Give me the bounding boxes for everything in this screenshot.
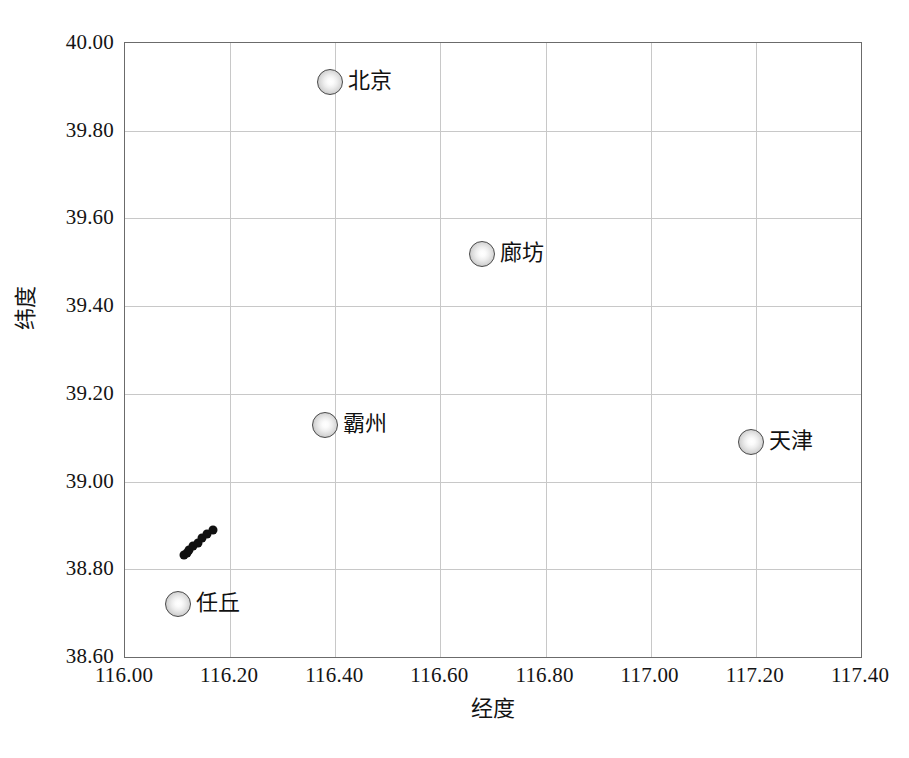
gridline-vertical <box>756 43 757 657</box>
x-tick-label: 116.60 <box>410 665 468 686</box>
x-axis-title: 经度 <box>124 696 862 722</box>
gridline-vertical <box>440 43 441 657</box>
gridline-horizontal <box>125 482 861 483</box>
page-caption <box>96 726 856 748</box>
y-axis-tick-labels: 38.6038.8039.0039.2039.4039.6039.8040.00 <box>0 42 114 658</box>
x-tick-label: 117.40 <box>831 665 889 686</box>
city-marker-icon[interactable] <box>738 429 764 455</box>
scatter-chart-figure: 北京廊坊霸州天津任丘 38.6038.8039.0039.2039.4039.6… <box>0 0 909 758</box>
city-label: 霸州 <box>343 411 387 437</box>
x-tick-label: 117.00 <box>621 665 679 686</box>
y-tick-label: 38.80 <box>66 558 114 579</box>
gridline-horizontal <box>125 569 861 570</box>
city-marker-icon[interactable] <box>165 591 191 617</box>
city-label: 天津 <box>769 428 813 454</box>
y-tick-label: 39.40 <box>66 295 114 316</box>
y-axis-title: 纬度 <box>14 286 38 330</box>
gridline-vertical <box>335 43 336 657</box>
y-tick-label: 39.00 <box>66 471 114 492</box>
y-tick-label: 40.00 <box>66 32 114 53</box>
y-tick-label: 39.20 <box>66 383 114 404</box>
plot-area: 北京廊坊霸州天津任丘 <box>124 42 862 658</box>
gridline-vertical <box>230 43 231 657</box>
x-tick-label: 117.20 <box>726 665 784 686</box>
gridline-horizontal <box>125 306 861 307</box>
gridline-vertical <box>651 43 652 657</box>
x-tick-label: 116.20 <box>200 665 258 686</box>
city-marker-icon[interactable] <box>469 241 495 267</box>
x-tick-label: 116.40 <box>305 665 363 686</box>
y-tick-label: 39.80 <box>66 120 114 141</box>
gridline-horizontal <box>125 394 861 395</box>
city-label: 廊坊 <box>500 240 544 266</box>
y-tick-label: 39.60 <box>66 207 114 228</box>
gridline-horizontal <box>125 131 861 132</box>
city-marker-icon[interactable] <box>317 69 343 95</box>
city-marker-icon[interactable] <box>312 412 338 438</box>
city-label: 北京 <box>348 68 392 94</box>
data-point-dot[interactable] <box>209 525 218 534</box>
city-label: 任丘 <box>196 590 240 616</box>
gridline-horizontal <box>125 218 861 219</box>
x-axis-tick-labels: 116.00116.20116.40116.60116.80117.00117.… <box>124 665 862 693</box>
gridline-vertical <box>546 43 547 657</box>
x-tick-label: 116.00 <box>95 665 153 686</box>
x-tick-label: 116.80 <box>515 665 573 686</box>
